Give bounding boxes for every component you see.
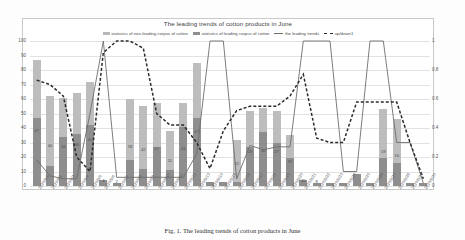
chart-legend: statistics of non-leading corpus of cott…	[22, 31, 434, 36]
chart-line-overlay	[30, 41, 430, 186]
legend-swatch-nonleading-icon	[103, 32, 110, 35]
y-tick-right: 0.6	[432, 97, 446, 102]
y-tick-right: 0.2	[432, 155, 446, 160]
y-tick-right: 0.8	[432, 68, 446, 73]
legend-item-trends[interactable]: the leading trends	[274, 31, 319, 36]
line-the-leading-trends	[37, 41, 424, 183]
y-tick-left: 10	[12, 170, 26, 175]
legend-label-leading: statistics of leading corpus of cotton	[201, 31, 269, 36]
y-tick-left: 50	[12, 112, 26, 117]
y-tick-left: 0	[12, 184, 26, 189]
chart-plot-area: 4740343642421842271141473229302737308191…	[30, 41, 430, 186]
y-tick-left: 40	[12, 126, 26, 131]
y-tick-right: 0	[432, 184, 446, 189]
y-tick-left: 80	[12, 68, 26, 73]
legend-item-nonleading[interactable]: statistics of non-leading corpus of cott…	[103, 31, 188, 36]
chart-title: The leading trends of cotton products in…	[22, 20, 434, 27]
y-tick-left: 90	[12, 54, 26, 59]
legend-item-leading[interactable]: statistics of leading corpus of cotton	[193, 31, 270, 36]
legend-item-updown[interactable]: up/down1	[324, 31, 353, 36]
legend-label-nonleading: statistics of non-leading corpus of cott…	[111, 31, 188, 36]
chart-figure: The leading trends of cotton products in…	[0, 0, 465, 240]
figure-caption: Fig. 1. The leading trends of cotton pro…	[0, 227, 465, 234]
legend-label-trends: the leading trends	[285, 31, 319, 36]
legend-swatch-updown-icon	[324, 33, 333, 34]
y-tick-left: 20	[12, 155, 26, 160]
y-tick-left: 60	[12, 97, 26, 102]
y-tick-right: 0.4	[432, 126, 446, 131]
y-tick-right: 1	[432, 39, 446, 44]
y-tick-left: 30	[12, 141, 26, 146]
legend-swatch-trends-icon	[274, 33, 283, 34]
legend-label-updown: up/down1	[335, 31, 354, 36]
legend-swatch-leading-icon	[193, 32, 200, 35]
y-tick-left: 70	[12, 83, 26, 88]
x-axis-labels: 2020/6/12020/6/22020/6/32020/6/42020/6/5…	[30, 188, 430, 232]
y-tick-left: 100	[12, 39, 26, 44]
